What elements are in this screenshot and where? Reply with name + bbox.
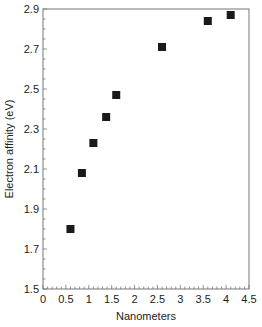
x-tick-label: 1 <box>86 293 92 305</box>
y-tick-label: 2.9 <box>24 3 39 15</box>
x-tick-label: 3 <box>177 293 183 305</box>
data-points <box>66 11 234 233</box>
y-tick-label: 1.9 <box>24 203 39 215</box>
y-tick-label: 2.3 <box>24 123 39 135</box>
scatter-chart: 00.511.522.533.544.5 1.51.71.92.12.32.52… <box>0 0 262 327</box>
x-axis-ticks <box>43 285 249 289</box>
y-axis-ticks <box>43 9 47 289</box>
y-tick-label: 2.7 <box>24 43 39 55</box>
data-point-marker <box>66 225 74 233</box>
y-tick-label: 1.7 <box>24 243 39 255</box>
data-point-marker <box>78 169 86 177</box>
x-tick-label: 0 <box>40 293 46 305</box>
plot-frame <box>43 9 249 289</box>
x-tick-labels: 00.511.522.533.544.5 <box>40 293 257 305</box>
x-tick-label: 3.5 <box>196 293 211 305</box>
x-tick-label: 4 <box>223 293 229 305</box>
data-point-marker <box>158 43 166 51</box>
data-point-marker <box>102 113 110 121</box>
y-tick-label: 1.5 <box>24 283 39 295</box>
y-tick-labels: 1.51.71.92.12.32.52.72.9 <box>24 3 39 295</box>
y-tick-label: 2.5 <box>24 83 39 95</box>
data-point-marker <box>204 17 212 25</box>
x-tick-label: 4.5 <box>241 293 256 305</box>
y-axis-label: Electron affinity (eV) <box>3 100 15 199</box>
x-axis-label: Nanometers <box>116 310 176 322</box>
data-point-marker <box>89 139 97 147</box>
data-point-marker <box>112 91 120 99</box>
x-tick-label: 2.5 <box>150 293 165 305</box>
data-point-marker <box>227 11 235 19</box>
x-tick-label: 1.5 <box>104 293 119 305</box>
x-tick-label: 0.5 <box>58 293 73 305</box>
x-tick-label: 2 <box>131 293 137 305</box>
y-tick-label: 2.1 <box>24 163 39 175</box>
